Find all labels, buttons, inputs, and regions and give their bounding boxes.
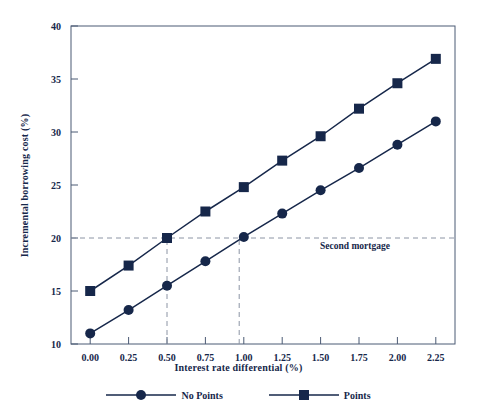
y-axis-tick-labels: 10152025303540	[51, 21, 61, 350]
data-point-marker	[239, 182, 249, 192]
data-point-marker	[85, 286, 95, 296]
y-axis-title: Incremental borrowing cost (%)	[19, 86, 30, 286]
data-point-marker	[239, 232, 249, 242]
y-axis-tick-label: 20	[51, 233, 61, 244]
data-point-marker	[124, 261, 134, 271]
legend-item-no-points[interactable]: No Points	[106, 388, 222, 402]
data-point-marker	[316, 131, 326, 141]
y-axis-tick-label: 15	[51, 286, 61, 297]
chart-legend: No Points Points	[0, 388, 477, 402]
data-point-marker	[392, 140, 402, 150]
y-axis-tick-label: 30	[51, 127, 61, 138]
data-point-marker	[277, 209, 287, 219]
data-point-marker	[354, 163, 364, 173]
data-point-marker	[200, 207, 210, 217]
line-chart-plot: 10152025303540 0.000.250.500.751.001.251…	[0, 0, 477, 419]
data-point-marker	[162, 281, 172, 291]
data-point-marker	[392, 78, 402, 88]
chart-figure: 10152025303540 0.000.250.500.751.001.251…	[0, 0, 477, 419]
data-point-marker	[431, 116, 441, 126]
legend-item-points[interactable]: Points	[269, 388, 371, 402]
y-axis-tick-label: 35	[51, 74, 61, 85]
y-axis-tick-label: 25	[51, 180, 61, 191]
x-axis-title: Interest rate differential (%)	[0, 362, 477, 373]
data-point-marker	[124, 305, 134, 315]
legend-swatch-circle-icon	[106, 388, 176, 402]
legend-swatch-square-icon	[269, 388, 339, 402]
second-mortgage-annotation: Second mortgage	[320, 241, 390, 251]
data-point-marker	[200, 256, 210, 266]
data-point-marker	[85, 328, 95, 338]
data-point-marker	[354, 104, 364, 114]
data-point-marker	[277, 156, 287, 166]
data-point-marker	[431, 54, 441, 64]
legend-label-points: Points	[344, 390, 371, 401]
y-axis-tick-label: 10	[51, 339, 61, 350]
legend-label-no-points: No Points	[181, 390, 222, 401]
plot-area-border	[71, 26, 455, 344]
y-axis-tick-label: 40	[51, 21, 61, 32]
data-point-marker	[316, 185, 326, 195]
data-point-marker	[162, 233, 172, 243]
